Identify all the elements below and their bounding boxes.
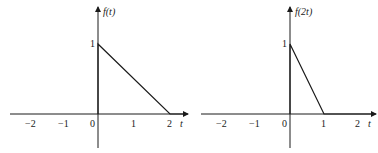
y-axis-label: f(2t) xyxy=(295,6,313,18)
y-axis-label: f(t) xyxy=(103,6,116,18)
x-tick-0: 0 xyxy=(282,118,287,129)
x-tick-minus-2: −2 xyxy=(25,118,36,129)
plot-f-of-t: f(t) 1 t −2 −1 0 1 2 xyxy=(10,6,188,148)
y-tick-1: 1 xyxy=(282,38,287,49)
x-tick-1: 1 xyxy=(131,118,136,129)
plot-f-of-2t: f(2t) 1 t −2 −1 0 1 2 xyxy=(201,6,376,148)
y-tick-1: 1 xyxy=(90,38,95,49)
x-tick-minus-1: −1 xyxy=(58,118,69,129)
f-of-2t-curve xyxy=(290,44,374,114)
x-axis-label: t xyxy=(180,118,183,129)
x-tick-minus-2: −2 xyxy=(216,118,227,129)
x-tick-1: 1 xyxy=(321,118,326,129)
x-tick-0: 0 xyxy=(90,118,95,129)
x-tick-minus-1: −1 xyxy=(249,118,260,129)
f-of-t-curve xyxy=(98,44,186,114)
figure: f(t) 1 t −2 −1 0 1 2 f(2t) 1 t −2 −1 0 1… xyxy=(0,0,378,153)
x-tick-2: 2 xyxy=(355,118,360,129)
x-axis-label: t xyxy=(368,118,371,129)
x-tick-2: 2 xyxy=(167,118,172,129)
